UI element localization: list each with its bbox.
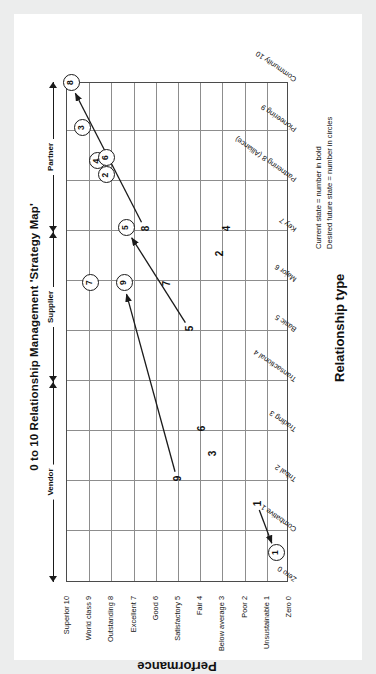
desired-state-marker: 7 <box>82 274 99 291</box>
y-axis-tick-label: Good 6 <box>150 596 159 620</box>
y-axis-tick-label: Satisfactory 5 <box>173 596 182 641</box>
y-axis-tick-label: Superior 10 <box>62 596 71 634</box>
legend-note: Current state = number in bold Desired f… <box>314 117 335 249</box>
band-arrow-left-icon <box>49 576 57 582</box>
y-axis-tick-label: Excellent 7 <box>128 596 137 632</box>
x-axis-title: Relationship type <box>332 274 347 382</box>
legend-line-current: Current state = number in bold <box>314 117 325 249</box>
band-arrow-left-icon <box>49 226 57 232</box>
legend-line-desired: Desired future state = number in circles <box>325 117 336 249</box>
band-label: Partner <box>46 139 55 175</box>
band-arrow-left-icon <box>49 376 57 382</box>
y-axis-tick-label: Outstanding 8 <box>106 596 115 642</box>
current-state-marker: 6 <box>196 426 207 432</box>
current-state-marker: 5 <box>184 326 195 332</box>
current-state-marker: 1 <box>251 501 262 507</box>
desired-state-marker: 8 <box>63 74 80 91</box>
desired-state-marker: 9 <box>116 274 133 291</box>
current-state-marker: 3 <box>207 451 218 457</box>
y-axis-tick-label: Fair 4 <box>195 596 204 615</box>
transition-arrow <box>132 238 186 323</box>
transition-arrow <box>259 510 272 543</box>
band-arrow-right-icon <box>49 382 57 388</box>
group-band-vendor: Vendor <box>48 382 59 582</box>
y-axis-tick-label: Unsustainable 1 <box>261 596 270 649</box>
transition-arrow <box>127 294 176 472</box>
current-state-marker: 4 <box>220 226 231 232</box>
band-arrow-right-icon <box>49 82 57 88</box>
rotated-figure-canvas: 0 to 10 Relationship Management 'Strateg… <box>14 14 362 660</box>
strategy-map-figure: 0 to 10 Relationship Management 'Strateg… <box>14 14 362 660</box>
plot-area: 123456789123456789 <box>66 82 288 582</box>
group-band-supplier: Supplier <box>48 232 59 382</box>
current-state-marker: 9 <box>171 476 182 482</box>
band-arrow-right-icon <box>49 232 57 238</box>
band-label: Vendor <box>46 464 55 499</box>
y-axis-tick-label: Poor 2 <box>239 596 248 618</box>
y-axis-tick-label: Below average 3 <box>217 596 226 651</box>
current-state-marker: 8 <box>139 226 150 232</box>
band-label: Supplier <box>46 287 55 327</box>
figure-page: 0 to 10 Relationship Management 'Strateg… <box>14 14 362 660</box>
y-axis-tick-label: World class 9 <box>84 596 93 640</box>
x-axis-tick-label: Community 10 <box>254 49 298 84</box>
current-state-marker: 7 <box>160 281 171 287</box>
y-axis-tick-label: Zero 0 <box>284 596 293 617</box>
figure-title: 0 to 10 Relationship Management 'Strateg… <box>28 14 40 660</box>
current-state-marker: 2 <box>214 251 225 257</box>
group-band-partner: Partner <box>48 82 59 232</box>
y-axis-title: Performance <box>137 659 216 674</box>
desired-state-marker: 3 <box>74 119 91 136</box>
